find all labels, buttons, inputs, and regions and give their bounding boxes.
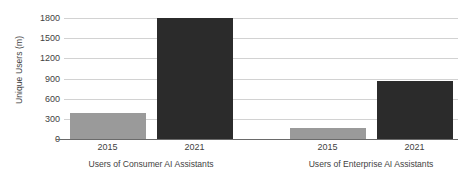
bar <box>377 81 453 139</box>
y-axis-tick-label: 1500 <box>40 33 60 43</box>
y-axis-tick-label: 1800 <box>40 13 60 23</box>
x-axis-line <box>56 139 458 140</box>
x-axis-tick-label: 2021 <box>184 142 204 152</box>
y-axis-tick-label: 600 <box>45 94 60 104</box>
bars-layer <box>64 18 458 139</box>
y-axis-title-label: Unique Users (m) <box>14 36 24 104</box>
x-axis-tick-label: 2015 <box>97 142 117 152</box>
bar <box>290 128 366 139</box>
x-axis-tick-label: 2021 <box>404 142 424 152</box>
y-axis-tick-label: 300 <box>45 114 60 124</box>
y-axis-tick-label: 900 <box>45 74 60 84</box>
bar <box>70 113 146 139</box>
bar <box>157 18 233 139</box>
x-axis-tick-labels: 2015202120152021 <box>64 142 458 156</box>
x-axis-group-label: Users of Enterprise AI Assistants <box>309 159 434 169</box>
plot-area <box>64 18 458 139</box>
x-axis-group-labels: Users of Consumer AI AssistantsUsers of … <box>64 159 458 175</box>
y-axis-tick-labels: 0300600900120015001800 <box>26 18 60 139</box>
y-axis-tick-label: 1200 <box>40 53 60 63</box>
x-axis-group-label: Users of Consumer AI Assistants <box>88 159 213 169</box>
bar-chart: Unique Users (m) 0300600900120015001800 … <box>0 0 468 182</box>
x-axis-tick-label: 2015 <box>317 142 337 152</box>
